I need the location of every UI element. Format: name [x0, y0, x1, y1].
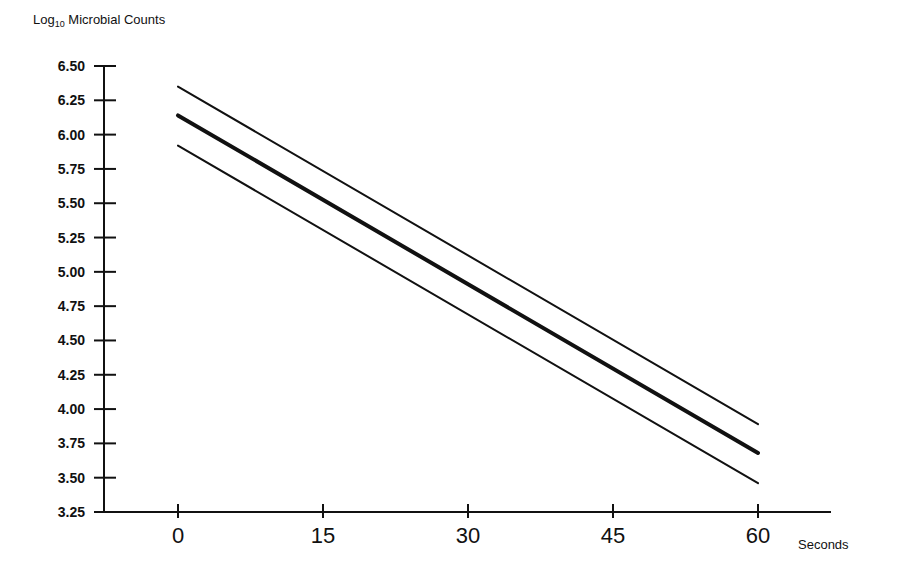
- x-tick-label: 15: [311, 523, 335, 548]
- x-tick-label: 60: [746, 523, 770, 548]
- confidence-limit-line: [178, 87, 758, 425]
- y-tick-label: 3.75: [58, 435, 85, 451]
- x-tick-label: 0: [172, 523, 184, 548]
- y-tick-label: 6.25: [58, 92, 85, 108]
- y-tick-label: 3.50: [58, 470, 85, 486]
- y-tick-label: 6.00: [58, 127, 85, 143]
- line-chart: 3.253.503.754.004.254.504.755.005.255.50…: [0, 0, 900, 570]
- data-series: [178, 87, 758, 484]
- x-tick-label: 30: [456, 523, 480, 548]
- y-tick-label: 3.25: [58, 504, 85, 520]
- y-axis-ticks: 3.253.503.754.004.254.504.755.005.255.50…: [58, 58, 116, 520]
- y-tick-label: 5.50: [58, 195, 85, 211]
- y-tick-label: 5.75: [58, 161, 85, 177]
- x-tick-label: 45: [601, 523, 625, 548]
- y-tick-label: 5.00: [58, 264, 85, 280]
- x-axis-label: Seconds: [798, 537, 849, 552]
- regression-line: [178, 115, 758, 453]
- y-tick-label: 4.50: [58, 332, 85, 348]
- y-tick-label: 4.00: [58, 401, 85, 417]
- y-tick-label: 5.25: [58, 230, 85, 246]
- x-axis-ticks: 015304560: [172, 504, 770, 548]
- confidence-limit-line: [178, 146, 758, 484]
- y-tick-label: 4.25: [58, 367, 85, 383]
- y-tick-label: 6.50: [58, 58, 85, 74]
- y-tick-label: 4.75: [58, 298, 85, 314]
